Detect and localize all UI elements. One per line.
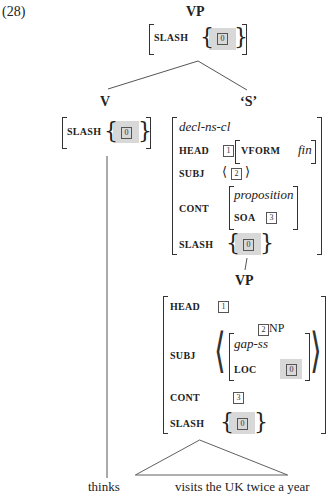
bracket-right — [321, 296, 326, 434]
angle-close: ⟩ — [245, 164, 250, 180]
bracket-right — [311, 140, 316, 164]
tag-box: 0 — [243, 239, 254, 251]
tag-box: 3 — [266, 212, 277, 224]
feature-cont: CONT — [170, 392, 200, 403]
feature-subj: SUBJ — [179, 168, 205, 179]
feature-subj: SUBJ — [170, 350, 196, 361]
leaf-phrase: visits the UK twice a year — [175, 479, 310, 495]
type-gap-ss: gap-ss — [234, 336, 268, 352]
leaf-thinks: thinks — [88, 479, 120, 495]
example-number: (28) — [2, 4, 25, 20]
brace-open: { — [104, 120, 118, 142]
feature-head: HEAD — [179, 145, 209, 156]
feature-cont: CONT — [179, 203, 209, 214]
bracket-left — [163, 296, 168, 434]
brace-close: } — [254, 411, 268, 433]
angle-open: ⟨ — [214, 327, 226, 375]
tag-box: 0 — [217, 33, 228, 45]
tag-box: 1 — [223, 145, 234, 157]
feature-loc: LOC — [234, 364, 257, 375]
tag-box: 2 — [258, 324, 269, 336]
feature-slash: SLASH — [67, 126, 101, 137]
bracket-right — [317, 117, 322, 255]
angle-close: ⟩ — [310, 327, 322, 375]
tag-box: 3 — [233, 392, 244, 404]
brace-open: { — [220, 411, 234, 433]
brace-close: } — [260, 232, 274, 254]
angle-open: ⟨ — [222, 164, 227, 180]
tag-box: 0 — [286, 364, 297, 376]
feature-soa: SOA — [234, 212, 255, 223]
bracket-left — [172, 117, 177, 255]
type-proposition: proposition — [234, 187, 293, 203]
tag-box: 0 — [237, 418, 248, 430]
bracket-right — [293, 186, 298, 230]
bracket-right — [146, 117, 151, 149]
root-vp-label: VP — [186, 4, 205, 20]
bracket-right — [242, 24, 247, 55]
feature-head: HEAD — [170, 301, 200, 312]
tag-box: 0 — [121, 127, 132, 139]
brace-open: { — [200, 26, 214, 48]
s-label: ‘S’ — [240, 94, 257, 110]
type-decl-ns-cl: decl-ns-cl — [179, 119, 230, 135]
feature-slash: SLASH — [179, 239, 213, 250]
np-label: NP — [269, 321, 284, 336]
feature-vform: VFORM — [241, 145, 280, 156]
tag-box: 1 — [218, 301, 229, 313]
brace-open: { — [226, 232, 240, 254]
v-label: V — [100, 94, 110, 110]
feature-slash: SLASH — [154, 32, 188, 43]
lower-vp-label: VP — [235, 273, 254, 289]
bracket-left — [235, 140, 240, 164]
feature-slash: SLASH — [170, 418, 204, 429]
tag-box: 2 — [231, 168, 242, 180]
value-fin: fin — [298, 142, 312, 158]
